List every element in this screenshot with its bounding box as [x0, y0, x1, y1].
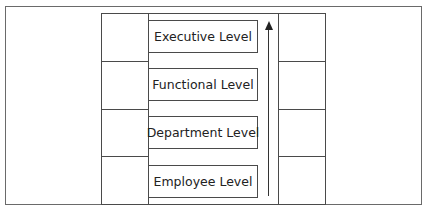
right-cell-3: [278, 109, 326, 157]
arrow-up-icon: [265, 21, 273, 30]
executive-level-box: Executive Level: [148, 20, 258, 53]
right-cell-2: [278, 61, 326, 110]
left-cell-2: [101, 61, 149, 110]
left-cell-1: [101, 13, 149, 62]
functional-level-box: Functional Level: [148, 68, 258, 101]
left-cell-3: [101, 109, 149, 157]
right-cell-1: [278, 13, 326, 62]
arrow-shaft: [268, 28, 269, 196]
employee-level-box: Employee Level: [148, 165, 258, 198]
right-cell-4: [278, 156, 326, 205]
department-level-box: Department Level: [148, 116, 258, 149]
left-cell-4: [101, 156, 149, 205]
